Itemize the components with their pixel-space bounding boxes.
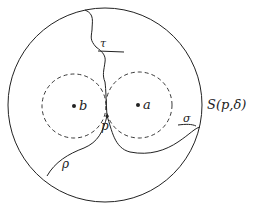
label-a: a — [143, 98, 151, 111]
curve-rho — [47, 116, 107, 176]
label-sphere: S(p,δ) — [207, 98, 246, 111]
label-p: p — [101, 120, 109, 132]
label-rho: ρ — [62, 158, 69, 170]
point-a — [136, 103, 140, 107]
label-b: b — [79, 99, 87, 112]
point-b — [72, 104, 76, 108]
curve-tau — [85, 10, 107, 116]
point-p — [105, 114, 108, 117]
label-sigma: σ — [183, 113, 191, 124]
label-tau: τ — [100, 38, 106, 49]
